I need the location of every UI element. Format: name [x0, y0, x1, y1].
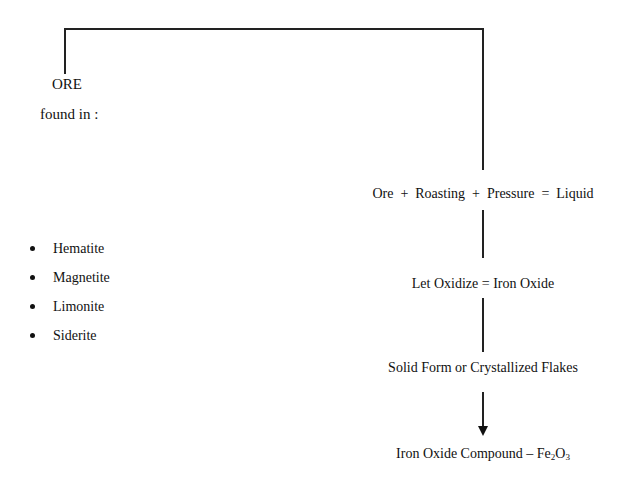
ore-subtitle: found in : — [40, 106, 98, 123]
arrow-down-icon — [478, 426, 488, 436]
bullet-icon — [30, 304, 35, 309]
list-item: Siderite — [30, 321, 110, 350]
connector-left-vertical — [64, 28, 66, 74]
arrow-shaft — [482, 392, 484, 426]
list-item: Hematite — [30, 234, 110, 263]
step-oxidize: Let Oxidize = Iron Oxide — [412, 276, 554, 292]
result-compound: Iron Oxide Compound – Fe2O3 — [396, 446, 570, 462]
connector-right-vertical — [482, 28, 484, 170]
step-roasting: Ore + Roasting + Pressure = Liquid — [372, 186, 593, 202]
bullet-icon — [30, 246, 35, 251]
ore-list: Hematite Magnetite Limonite Siderite — [30, 234, 110, 350]
bullet-icon — [30, 275, 35, 280]
connector-top-horizontal — [64, 28, 483, 30]
list-item: Magnetite — [30, 263, 110, 292]
connector-1 — [482, 210, 484, 258]
list-item: Limonite — [30, 292, 110, 321]
step-solid-form: Solid Form or Crystallized Flakes — [388, 360, 578, 376]
bullet-icon — [30, 333, 35, 338]
ore-title: ORE — [52, 76, 82, 93]
connector-2 — [482, 298, 484, 352]
